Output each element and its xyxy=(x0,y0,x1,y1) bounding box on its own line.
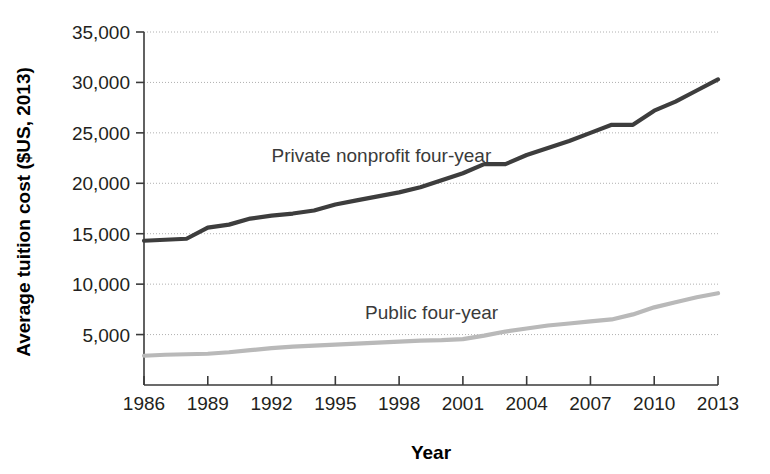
chart-container: 5,00010,00015,00020,00025,00030,00035,00… xyxy=(0,0,770,474)
series-label-private-nonprofit-four-year: Private nonprofit four-year xyxy=(272,145,492,166)
x-tick-label: 1995 xyxy=(314,393,356,414)
y-axis-title: Average tuition cost ($US, 2013) xyxy=(13,67,34,357)
x-tick-label: 1989 xyxy=(187,393,229,414)
x-tick-label: 2010 xyxy=(633,393,675,414)
x-tick-label: 1998 xyxy=(378,393,420,414)
y-tick-label: 10,000 xyxy=(72,274,130,295)
x-tick-label: 2004 xyxy=(506,393,549,414)
y-tick-label: 5,000 xyxy=(82,325,130,346)
y-tick-label: 25,000 xyxy=(72,123,130,144)
series-label-public-four-year: Public four-year xyxy=(365,302,499,323)
x-axis-title: Year xyxy=(411,442,452,463)
x-tick-label: 2007 xyxy=(569,393,611,414)
x-tick-label: 2001 xyxy=(442,393,484,414)
tuition-cost-line-chart: 5,00010,00015,00020,00025,00030,00035,00… xyxy=(0,0,770,474)
x-tick-label: 2013 xyxy=(697,393,739,414)
y-tick-label: 30,000 xyxy=(72,72,130,93)
y-tick-label: 15,000 xyxy=(72,224,130,245)
y-tick-label: 35,000 xyxy=(72,22,130,43)
x-tick-label: 1992 xyxy=(250,393,292,414)
x-tick-label: 1986 xyxy=(123,393,165,414)
y-tick-label: 20,000 xyxy=(72,173,130,194)
